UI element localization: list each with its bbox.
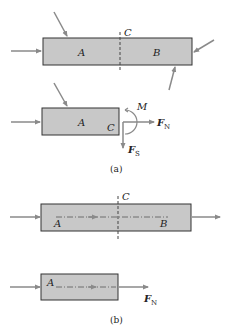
fb-label-a: A xyxy=(77,117,85,128)
mechanics-figure: C A B A C M F N F S (a) C A B A F N (b) xyxy=(0,0,231,334)
section-label-c-b: C xyxy=(122,191,130,202)
label-a-b: A xyxy=(53,218,61,229)
fb-label-c: C xyxy=(107,122,115,133)
section-label-c: C xyxy=(124,27,132,38)
fs-sub: S xyxy=(135,150,140,158)
moment-label: M xyxy=(136,101,148,112)
fn-sub: N xyxy=(164,123,170,131)
bar-ab-b xyxy=(41,204,191,231)
caption-b: (b) xyxy=(110,315,123,325)
caption-a: (a) xyxy=(110,164,122,174)
force-arrow-top xyxy=(54,12,67,36)
fb-force-arrow-top xyxy=(54,83,67,106)
force-arrow-bottom xyxy=(169,67,175,90)
force-arrow-right xyxy=(194,40,214,52)
fb-label-a-b: A xyxy=(46,277,54,288)
label-b-b: B xyxy=(159,218,167,229)
fn-sub-b: N xyxy=(151,299,157,307)
label-a: A xyxy=(77,47,85,58)
label-b: B xyxy=(152,47,160,58)
bar-ab-a xyxy=(43,32,192,72)
